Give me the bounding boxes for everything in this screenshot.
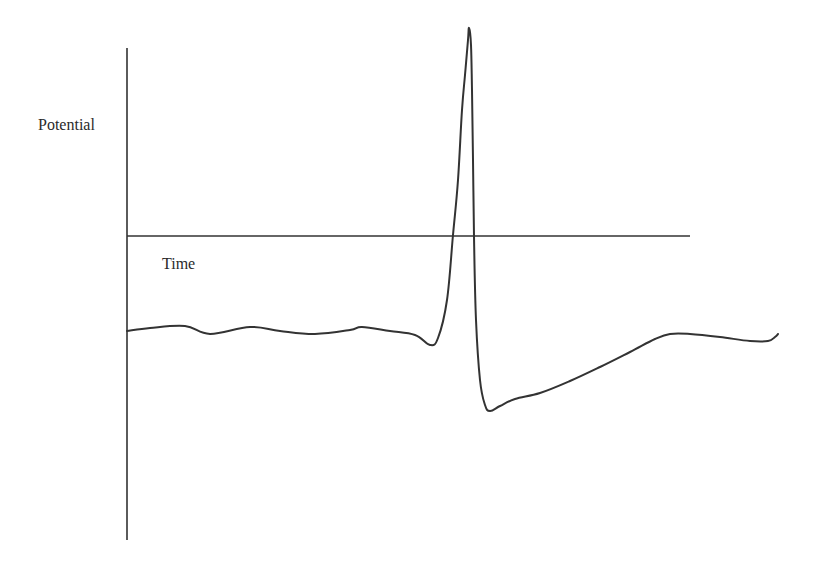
- x-axis-label: Time: [162, 255, 195, 273]
- y-axis-label: Potential: [38, 116, 95, 134]
- potential-trace: [127, 28, 778, 411]
- action-potential-chart: [0, 0, 826, 564]
